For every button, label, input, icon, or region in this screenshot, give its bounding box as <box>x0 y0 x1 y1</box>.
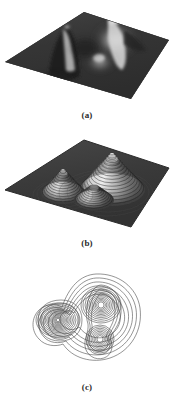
panel-c-contour-lines <box>33 274 140 360</box>
panel-a-surface-svg <box>0 0 174 106</box>
panel-c-caption: (c) <box>0 382 174 392</box>
panel-b-contoured-surface: (b) <box>0 128 174 256</box>
panel-b-caption: (b) <box>0 238 174 248</box>
panel-a-caption: (a) <box>0 110 174 120</box>
panel-c-plot-area <box>0 256 174 382</box>
panel-b-plot-area <box>0 128 174 234</box>
panel-b-surface-svg <box>0 128 174 234</box>
panel-a-plot-area <box>0 0 174 106</box>
panel-c-contour-map: (c) <box>0 256 174 402</box>
three-panel-surface-figure: (a) <box>0 0 174 402</box>
panel-c-left-peak-rings <box>36 303 80 337</box>
panel-a-smooth-surface: (a) <box>0 0 174 128</box>
panel-a-grain <box>5 12 169 100</box>
panel-c-right-lower-peak-rings <box>86 325 114 353</box>
panel-c-contour-svg <box>0 256 174 382</box>
